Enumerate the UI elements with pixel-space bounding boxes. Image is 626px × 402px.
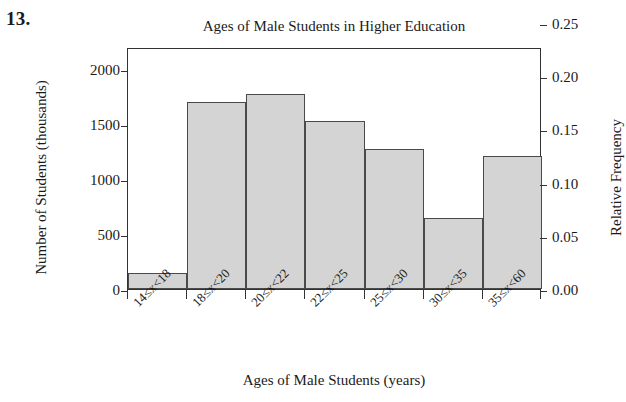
left-axis-tick: [121, 181, 128, 182]
right-axis-tick-label: 0.10: [552, 175, 578, 192]
right-axis-tick: [540, 185, 547, 186]
right-axis-tick: [540, 131, 547, 132]
left-axis-tick: [121, 71, 128, 72]
x-axis-category-labels: 14≤x<1818≤x<2020≤x<2222≤x<2525≤x<3030≤x<…: [127, 299, 557, 361]
right-axis-tick: [540, 25, 547, 26]
x-axis-tick: [364, 290, 365, 299]
left-axis-tick-label: 1500: [90, 117, 120, 134]
right-axis-title: Relative Frequency: [608, 73, 625, 283]
left-axis-tick-label: 1000: [90, 172, 120, 189]
axis-ticks-group: [128, 49, 540, 289]
right-axis-tick: [540, 78, 547, 79]
left-axis-tick-labels: 0500100015002000: [48, 48, 120, 290]
x-axis-tick: [540, 290, 541, 299]
x-axis-tick: [304, 290, 305, 299]
x-axis-tick: [127, 290, 128, 299]
right-axis-tick: [540, 238, 547, 239]
right-axis-tick-labels: 0.000.050.100.150.200.25: [552, 48, 598, 290]
left-axis-tick-label: 0: [113, 282, 121, 299]
x-axis-tick: [482, 290, 483, 299]
left-axis-tick: [121, 236, 128, 237]
left-axis-tick: [121, 126, 128, 127]
x-axis-tick: [423, 290, 424, 299]
chart-title: Ages of Male Students in Higher Educatio…: [127, 17, 541, 35]
right-axis-tick-label: 0.00: [552, 282, 578, 299]
x-axis-tick: [245, 290, 246, 299]
histogram-figure: 13. Ages of Male Students in Higher Educ…: [0, 0, 626, 402]
left-axis-tick-label: 2000: [90, 62, 120, 79]
right-axis-tick-label: 0.25: [552, 15, 578, 32]
right-axis-tick-label: 0.05: [552, 228, 578, 245]
left-axis-title: Number of Students (thousands): [33, 53, 50, 303]
right-axis-tick-label: 0.15: [552, 122, 578, 139]
right-axis-tick-label: 0.20: [552, 69, 578, 86]
left-axis-tick-label: 500: [98, 227, 121, 244]
x-axis-title: Ages of Male Students (years): [127, 372, 541, 389]
x-axis-tick: [186, 290, 187, 299]
plot-area: [127, 48, 541, 290]
right-axis-tick: [540, 291, 547, 292]
problem-number: 13.: [6, 8, 31, 30]
